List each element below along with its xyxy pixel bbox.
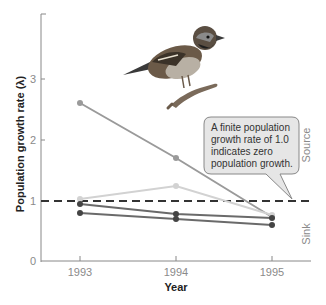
callout-line-4: population growth. (211, 158, 293, 169)
y-tick-1: 1 (30, 195, 36, 207)
sink-label: Sink (300, 223, 312, 245)
callout-line-1: A finite population (211, 122, 290, 133)
x-ticks: 1993 1994 1995 (68, 256, 284, 278)
sparrow-illustration (123, 26, 225, 108)
y-tick-2: 2 (30, 134, 36, 146)
x-tick-1993: 1993 (68, 266, 92, 278)
x-tick-1995: 1995 (260, 266, 284, 278)
x-tick-1994: 1994 (164, 266, 188, 278)
callout-line-3: indicates zero (211, 146, 273, 157)
chart: 3 2 1 0 1993 1994 1995 Year Population g… (0, 0, 326, 305)
y-ticks: 3 2 1 0 (30, 73, 45, 267)
zero-growth-callout: A finite population growth rate of 1.0 i… (204, 117, 299, 199)
y-tick-0: 0 (30, 255, 36, 267)
source-label: Source (300, 128, 312, 163)
y-tick-3: 3 (30, 73, 36, 85)
x-axis-title: Year (164, 281, 188, 293)
y-axis-title: Population growth rate (λ) (14, 76, 26, 213)
callout-line-2: growth rate of 1.0 (211, 134, 289, 145)
